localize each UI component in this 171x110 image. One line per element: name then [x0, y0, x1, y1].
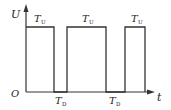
high-interval-label-1: T U: [34, 13, 46, 25]
svg-text:D: D: [62, 101, 67, 107]
pulse-waveform: [26, 27, 145, 92]
high-interval-label-2: T U: [82, 13, 94, 25]
x-axis-arrow-icon: [147, 90, 155, 95]
y-axis-label: U: [11, 8, 21, 21]
low-interval-label-2: T D: [109, 95, 121, 107]
origin-label: O: [11, 88, 19, 99]
y-axis-arrow-icon: [24, 4, 29, 12]
svg-text:U: U: [138, 19, 143, 25]
svg-text:U: U: [89, 19, 94, 25]
high-interval-label-3: T U: [131, 13, 143, 25]
x-axis-label: t: [157, 91, 162, 104]
svg-text:D: D: [116, 101, 121, 107]
pulse-diagram: U t O T U T U T U T D T D: [0, 0, 171, 110]
low-interval-label-1: T D: [55, 95, 67, 107]
svg-text:U: U: [41, 19, 46, 25]
